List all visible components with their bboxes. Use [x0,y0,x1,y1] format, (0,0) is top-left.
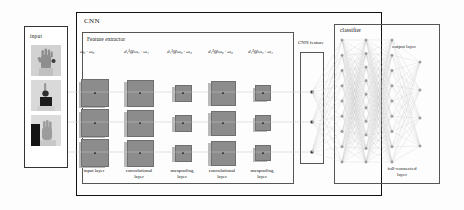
feature-map [255,115,271,131]
input-thumbnail-open-palm [31,45,61,76]
feature-map [81,109,109,137]
feature-map [175,115,192,132]
weight-label-0: ω₀ · ω₀ [80,49,94,54]
cnn-title: CNN [84,18,100,25]
feature-map [211,141,236,166]
feature-map [175,145,192,162]
weight-label-2: d₁¹@ω₂ · ω₂ [167,49,192,54]
classifier-title: classifier [340,28,361,34]
weight-label-4: d₁²@ω₄ · ω₄ [248,49,273,54]
stage-label-0: input layer [69,168,119,174]
hand-gesture-open-palm-icon [31,45,61,76]
full-connected-layer-label: full-connectedlayer [372,166,432,179]
feature-map [81,79,109,107]
output-layer-label: output layer [392,44,416,49]
feature-map [211,111,236,136]
feature-map [255,85,271,101]
feature-map [127,110,154,137]
feature-map [255,145,271,161]
feature-map [127,140,154,167]
feature-map [175,85,192,102]
weight-label-3: d₁²@ω₃ · ω₃ [208,49,233,54]
cnn-feature-frame [300,52,324,164]
figure-canvas: input [0,0,464,210]
feature-map [127,80,154,107]
feature-extractor-title: Feature extractor [87,37,125,43]
feature-map [211,81,236,106]
feature-map [81,139,109,167]
input-panel-title: input [30,34,42,39]
classifier-frame [334,24,440,184]
stage-label-4: maxpoolinglayer [237,168,287,180]
input-thumbnail-side-hand [31,115,61,146]
weight-label-1: d₁¹@ω₁ · ω₁ [124,49,149,54]
input-thumbnail-pointing [31,80,61,111]
hand-gesture-side-icon [31,115,61,146]
hand-gesture-pointing-icon [31,80,61,111]
cnn-feature-title: CNN feature [298,40,324,45]
